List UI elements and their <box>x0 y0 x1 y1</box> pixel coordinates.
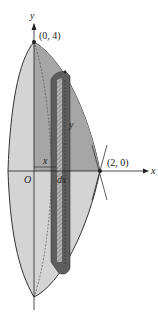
shell-thickness-label: dx <box>57 174 67 185</box>
point-right <box>98 169 102 173</box>
y-axis-label: y <box>29 10 35 21</box>
shell-method-diagram: y x (0, 4) (2, 0) O x dx y <box>0 0 158 317</box>
shell-height-label: y <box>68 119 74 130</box>
y-axis-arrow-icon <box>32 23 37 30</box>
x-axis-label: x <box>150 165 156 176</box>
shell-inner-face <box>57 78 62 262</box>
top-point-label: (0, 4) <box>39 30 61 42</box>
point-top <box>32 40 36 44</box>
right-point-label: (2, 0) <box>107 157 129 169</box>
shell-radius-label: x <box>42 155 48 166</box>
origin-label: O <box>24 174 31 185</box>
x-axis-arrow-icon <box>143 169 149 174</box>
point-shell-top <box>64 71 67 74</box>
